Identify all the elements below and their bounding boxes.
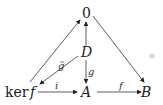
node-kerf-f: f bbox=[30, 85, 35, 99]
circle-marker-icon bbox=[150, 54, 154, 58]
node-zero: 0 bbox=[82, 6, 91, 20]
label-f: f bbox=[119, 81, 123, 91]
label-g: g bbox=[88, 67, 94, 77]
node-d: D bbox=[81, 45, 92, 59]
node-b: B bbox=[141, 85, 151, 99]
node-kerf-ker: ker bbox=[5, 85, 28, 99]
arrow-zero-to-b bbox=[93, 16, 144, 82]
label-gtilde: g̃ bbox=[58, 61, 64, 71]
label-i: i bbox=[55, 81, 58, 91]
node-a: A bbox=[81, 85, 91, 99]
